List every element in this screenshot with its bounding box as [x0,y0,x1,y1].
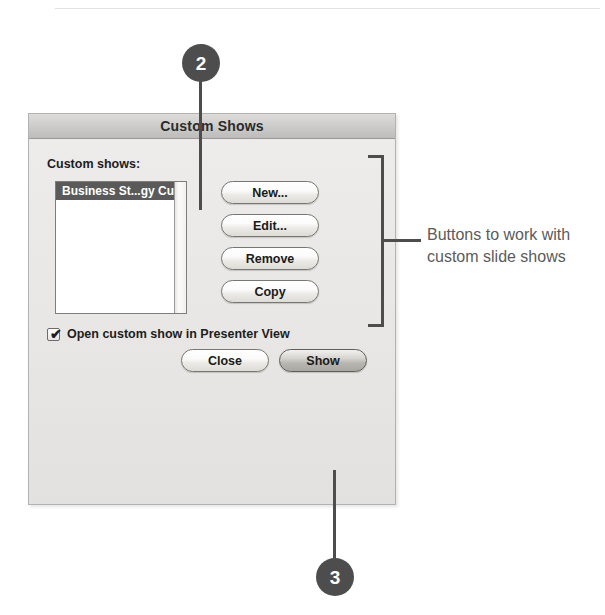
new-button[interactable]: New... [221,181,319,204]
list-item[interactable]: Business St...gy Custom [56,182,175,200]
presenter-view-checkbox[interactable]: ✔ [47,328,60,341]
show-button[interactable]: Show [279,349,367,372]
checkmark-icon: ✔ [50,327,62,341]
list-vertical-scrollbar[interactable] [174,182,186,313]
dialog-title: Custom Shows [160,118,264,134]
remove-button[interactable]: Remove [221,247,319,270]
callout-2-leader-line [199,80,202,210]
copy-button[interactable]: Copy [221,280,319,303]
presenter-view-checkbox-row[interactable]: ✔ Open custom show in Presenter View [47,327,290,341]
figure-top-rule [55,8,600,9]
close-button[interactable]: Close [181,349,269,372]
side-buttons-annotation-text: Buttons to work with custom slide shows [427,224,602,268]
custom-shows-label: Custom shows: [47,157,140,171]
callout-badge-2: 2 [182,44,220,82]
dialog-titlebar[interactable]: Custom Shows [29,114,395,139]
custom-shows-list[interactable]: Business St...gy Custom [55,181,187,314]
side-buttons-bracket-leader [384,239,421,242]
dialog-body: Custom shows: Business St...gy Custom ✔ … [29,139,395,504]
edit-button[interactable]: Edit... [221,214,319,237]
custom-shows-dialog: Custom Shows Custom shows: Business St..… [28,113,396,505]
side-buttons-bracket [368,155,384,327]
callout-badge-3: 3 [316,558,354,596]
callout-3-leader-line [333,470,336,562]
presenter-view-checkbox-label: Open custom show in Presenter View [67,327,290,341]
